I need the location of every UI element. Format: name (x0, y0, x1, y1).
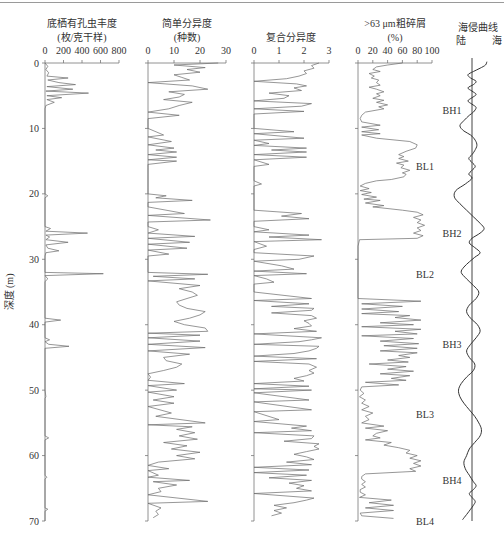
x-tick-label: 40 (383, 45, 393, 56)
sealevel-land-label: 陆 (456, 34, 466, 46)
x-tick-label: 80 (412, 45, 422, 56)
zone-label-bh4: BH4 (443, 475, 462, 486)
y-tick-label: 40 (29, 319, 39, 330)
depth-profile-chart: 底栖有孔虫丰度 (枚/克干样) 简单分异度 (种数) 复合分异度 >63 μm粗… (0, 0, 504, 536)
zone-label-bl4: BL4 (416, 516, 434, 527)
y-tick-label: 0 (34, 58, 39, 69)
y-tick-label: 20 (29, 188, 39, 199)
zone-label-bl2: BL2 (416, 269, 434, 280)
series-simple-diversity (148, 63, 218, 518)
x-tick-label: 100 (425, 45, 440, 56)
zone-label-bh1: BH1 (443, 105, 462, 116)
series-foram (45, 63, 103, 521)
y-axis-label: 深度 (m) (3, 274, 16, 311)
x-tick-label: 0 (252, 45, 257, 56)
zone-label-bl1: BL1 (416, 161, 434, 172)
x-tick-label: 20 (195, 45, 205, 56)
series-coarse-fraction (358, 63, 425, 518)
panel-title-foram-line1: 底栖有孔虫丰度 (47, 17, 117, 29)
sealevel-sea-label: 海 (492, 34, 502, 46)
x-tick-label: 3 (327, 45, 332, 56)
x-tick-label: 0 (146, 45, 151, 56)
zone-label-bh3: BH3 (443, 339, 462, 350)
x-tick-label: 600 (93, 45, 108, 56)
series-compound-diversity (254, 63, 322, 516)
zone-label-bl3: BL3 (416, 409, 434, 420)
x-tick-label: 0 (43, 45, 48, 56)
x-tick-label: 10 (169, 45, 179, 56)
x-tick-label: 20 (368, 45, 378, 56)
y-tick-label: 30 (29, 254, 39, 265)
y-tick-label: 70 (29, 516, 39, 527)
x-tick-label: 800 (112, 45, 127, 56)
panel-title-foram-line2: (枚/克干样) (57, 31, 106, 44)
series-group (45, 62, 487, 521)
x-tick-label: 30 (221, 45, 231, 56)
panel-title-sealevel: 海侵曲线 (458, 21, 498, 33)
axes-group: 0200400600800010203040506070010203001230… (29, 45, 472, 527)
x-tick-label: 2 (302, 45, 307, 56)
panel-title-coarse-line2: (%) (388, 32, 403, 44)
x-tick-label: 1 (277, 45, 282, 56)
x-tick-label: 0 (356, 45, 361, 56)
panel-title-coarse-line1: >63 μm粗碎屑 (364, 17, 425, 29)
zone-label-bh2: BH2 (443, 228, 462, 239)
x-tick-label: 200 (56, 45, 71, 56)
panel-title-simple-line2: (种数) (174, 31, 201, 44)
x-tick-label: 400 (75, 45, 90, 56)
y-tick-label: 60 (29, 450, 39, 461)
y-tick-label: 50 (29, 385, 39, 396)
x-tick-label: 60 (397, 45, 407, 56)
sea-level-curve (454, 62, 487, 520)
zone-labels-group: BH1BL1BH2BL2BH3BL3BH4BL4 (416, 105, 461, 527)
y-tick-label: 10 (29, 123, 39, 134)
panel-title-compound: 复合分异度 (266, 31, 316, 43)
panel-title-simple-line1: 简单分异度 (162, 17, 212, 29)
